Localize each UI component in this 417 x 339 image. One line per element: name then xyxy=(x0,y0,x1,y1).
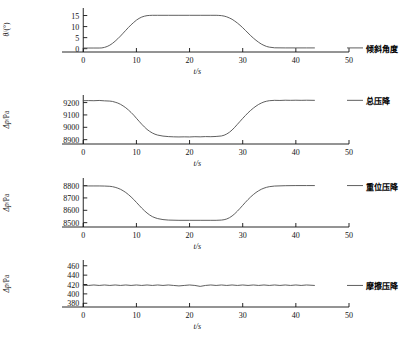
y-tick-label: 8900 xyxy=(63,136,79,145)
y-tick-label: 5 xyxy=(75,34,79,43)
x-tick-label: 10 xyxy=(132,311,140,320)
y-tick-label: 400 xyxy=(67,290,79,299)
y-axis-label-friction-pressure-drop: Δp/Pa xyxy=(2,261,11,305)
y-axis-label-symbol: Δp xyxy=(2,284,11,292)
y-axis-label-symbol: Δp xyxy=(2,120,11,128)
y-axis-label-elevation-pressure-drop: Δp/Pa xyxy=(2,180,11,224)
plot-area-friction-pressure-drop: 01020304050380400420440460 xyxy=(0,252,417,339)
y-axis-label-unit: /Pa xyxy=(2,274,11,284)
y-axis-label-symbol: θ xyxy=(2,33,11,37)
chart-panel-friction-pressure-drop: 01020304050380400420440460Δp/Pat/s摩擦压降 xyxy=(0,252,417,339)
x-tick-label: 30 xyxy=(239,311,247,320)
y-axis-label-unit: /(°) xyxy=(2,23,11,33)
x-tick-label: 30 xyxy=(239,148,247,157)
x-tick-label: 10 xyxy=(132,56,140,65)
series-label-total-pressure-drop: 总压降 xyxy=(366,95,390,106)
data-series-line xyxy=(83,186,314,221)
series-label-friction-pressure-drop: 摩擦压降 xyxy=(366,280,398,291)
y-tick-label: 9200 xyxy=(63,99,79,108)
x-tick-label: 0 xyxy=(81,311,85,320)
y-tick-label: 8800 xyxy=(63,182,79,191)
chart-panel-inclination: 01020304050051015θ/(°)t/s倾斜角度 xyxy=(0,2,417,86)
chart-panel-elevation-pressure-drop: 010203040508500860087008800Δp/Pat/s重位压降 xyxy=(0,172,417,261)
y-axis-label-unit: /Pa xyxy=(2,193,11,203)
y-tick-label: 460 xyxy=(67,262,79,271)
x-tick-label: 0 xyxy=(81,231,85,240)
x-tick-label: 50 xyxy=(345,231,353,240)
y-axis-label-unit: /Pa xyxy=(2,110,11,120)
data-series-line xyxy=(83,100,314,137)
x-axis-label-total-pressure-drop: t/s xyxy=(194,159,202,168)
y-tick-label: 8600 xyxy=(63,206,79,215)
data-series-line xyxy=(83,15,314,48)
data-series-line xyxy=(83,285,314,286)
y-tick-label: 380 xyxy=(67,299,79,308)
x-tick-label: 40 xyxy=(292,56,300,65)
y-tick-label: 9000 xyxy=(63,123,79,132)
y-axis-label-inclination: θ/(°) xyxy=(2,8,11,52)
y-axis-label-total-pressure-drop: Δp/Pa xyxy=(2,97,11,141)
y-axis-label-symbol: Δp xyxy=(2,203,11,211)
x-tick-label: 0 xyxy=(81,56,85,65)
x-tick-label: 50 xyxy=(345,311,353,320)
plot-area-elevation-pressure-drop: 010203040508500860087008800 xyxy=(0,172,417,261)
series-label-inclination: 倾斜角度 xyxy=(366,43,398,54)
x-tick-label: 30 xyxy=(239,56,247,65)
x-tick-label: 30 xyxy=(239,231,247,240)
x-tick-label: 20 xyxy=(186,231,194,240)
y-tick-label: 8500 xyxy=(63,219,79,228)
y-tick-label: 9100 xyxy=(63,111,79,120)
x-axis-label-inclination: t/s xyxy=(194,67,202,76)
y-tick-label: 15 xyxy=(71,12,79,21)
x-tick-label: 20 xyxy=(186,311,194,320)
x-tick-label: 20 xyxy=(186,56,194,65)
y-tick-label: 8700 xyxy=(63,194,79,203)
chart-panel-total-pressure-drop: 010203040508900900091009200Δp/Pat/s总压降 xyxy=(0,87,417,178)
y-tick-label: 420 xyxy=(67,281,79,290)
series-label-elevation-pressure-drop: 重位压降 xyxy=(366,181,398,192)
x-tick-label: 10 xyxy=(132,231,140,240)
figure-container: 01020304050051015θ/(°)t/s倾斜角度01020304050… xyxy=(0,0,417,339)
x-tick-label: 0 xyxy=(81,148,85,157)
x-axis-label-friction-pressure-drop: t/s xyxy=(194,322,202,331)
x-tick-label: 40 xyxy=(292,148,300,157)
x-tick-label: 50 xyxy=(345,148,353,157)
x-tick-label: 50 xyxy=(345,56,353,65)
plot-area-total-pressure-drop: 010203040508900900091009200 xyxy=(0,87,417,178)
x-axis-label-elevation-pressure-drop: t/s xyxy=(194,242,202,251)
y-tick-label: 0 xyxy=(75,45,79,54)
x-tick-label: 20 xyxy=(186,148,194,157)
y-tick-label: 440 xyxy=(67,271,79,280)
x-tick-label: 40 xyxy=(292,231,300,240)
plot-area-inclination: 01020304050051015 xyxy=(0,2,417,86)
x-tick-label: 10 xyxy=(132,148,140,157)
x-tick-label: 40 xyxy=(292,311,300,320)
y-tick-label: 10 xyxy=(71,23,79,32)
